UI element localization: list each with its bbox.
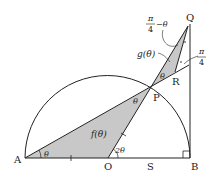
right-angle-mark-B <box>183 151 190 158</box>
label-S: S <box>147 161 154 172</box>
angle-label-theta-A: θ <box>44 150 49 159</box>
fraction-num-pi4-theta: π <box>147 14 154 23</box>
fraction-num-pi4: π <box>198 47 205 56</box>
geometry-diagram: A O S B P Q R θ θ θ 2θ f(θ) g(θ) π 4 −θ … <box>0 0 215 180</box>
area-label-g: g(θ) <box>137 49 156 59</box>
label-B: B <box>191 161 198 172</box>
angle-label-theta-P-lower: θ <box>133 97 138 106</box>
diagram-canvas: A O S B P Q R θ θ θ 2θ f(θ) g(θ) π 4 −θ … <box>0 0 215 180</box>
angle-label-2theta-O: 2θ <box>114 146 125 155</box>
label-A: A <box>13 154 22 165</box>
label-Q: Q <box>186 12 194 23</box>
leader-pi4 <box>184 56 198 64</box>
area-label-f: f(θ) <box>90 129 107 139</box>
fraction-den-pi4-theta: 4 <box>148 25 153 34</box>
label-R: R <box>172 76 180 87</box>
fraction-suffix-pi4-theta: −θ <box>156 20 168 29</box>
angle-dot-Q <box>184 41 186 43</box>
leader-pi4-theta <box>162 30 178 46</box>
label-P: P <box>153 92 160 103</box>
angle-dot-R <box>180 61 182 63</box>
angle-label-theta-P-upper: θ <box>160 72 165 81</box>
label-O: O <box>104 161 112 172</box>
fraction-den-pi4: 4 <box>199 58 204 67</box>
